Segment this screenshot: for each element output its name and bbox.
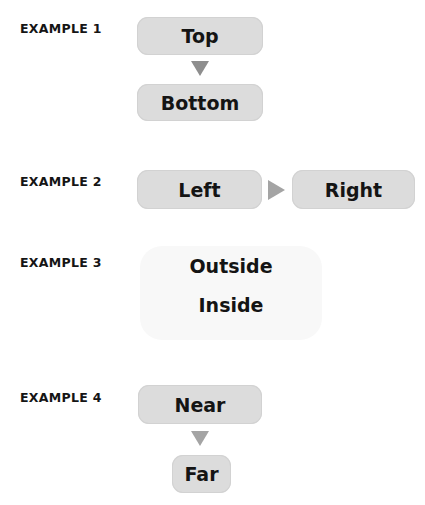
- example-4-label: EXAMPLE 4: [20, 390, 102, 405]
- near-box: Near: [138, 385, 262, 424]
- top-box: Top: [137, 17, 263, 55]
- inside-text: Inside: [140, 294, 322, 316]
- example-2-label: EXAMPLE 2: [20, 174, 102, 189]
- left-box: Left: [137, 170, 262, 209]
- arrow-down-icon: [191, 431, 209, 446]
- far-box: Far: [172, 455, 231, 493]
- bottom-box: Bottom: [137, 84, 263, 121]
- example-3-label: EXAMPLE 3: [20, 255, 102, 270]
- example-1-label: EXAMPLE 1: [20, 21, 102, 36]
- arrow-down-icon: [191, 61, 209, 76]
- arrow-right-icon: [268, 180, 285, 200]
- right-box: Right: [292, 170, 415, 209]
- outside-text: Outside: [140, 255, 322, 277]
